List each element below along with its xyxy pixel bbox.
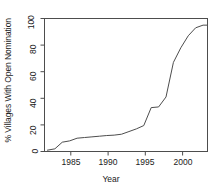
x-tick-label-2000: 2000	[166, 158, 200, 167]
x-tick-label-1995: 1995	[128, 158, 162, 167]
y-axis-ticks	[41, 19, 45, 152]
x-tick-label-1985: 1985	[54, 158, 88, 167]
x-axis-ticks	[71, 152, 183, 156]
x-axis-title: Year	[0, 175, 222, 184]
plot-frame	[45, 19, 208, 152]
chart-figure: % Villages With Open Nomination 100 80 6…	[0, 0, 222, 193]
series-line-open-nomination	[47, 25, 206, 150]
x-tick-label-1990: 1990	[91, 158, 125, 167]
